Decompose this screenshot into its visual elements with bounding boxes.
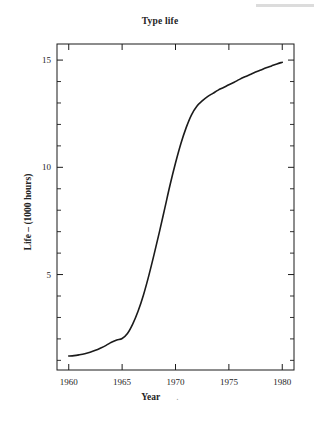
chart-figure: Type life 51015 19601965197019751980 Yea… — [0, 0, 320, 421]
data-line-0 — [69, 62, 283, 356]
x-tick-label-1970: 1970 — [167, 377, 185, 387]
x-axis-ticks — [69, 44, 283, 370]
y-axis-title: Life – (1000 hours) — [23, 132, 33, 292]
stray-dot-artifact: . — [176, 392, 178, 402]
y-tick-label-15: 15 — [17, 55, 51, 65]
x-tick-label-1960: 1960 — [60, 377, 78, 387]
y-axis-ticks — [57, 60, 294, 360]
data-series-group — [69, 62, 283, 356]
plot-frame — [57, 44, 294, 370]
x-axis-title: Year. — [0, 392, 320, 402]
x-axis-title-text: Year — [141, 392, 160, 402]
x-tick-label-1980: 1980 — [273, 377, 291, 387]
x-tick-label-1975: 1975 — [220, 377, 238, 387]
x-tick-label-1965: 1965 — [113, 377, 131, 387]
